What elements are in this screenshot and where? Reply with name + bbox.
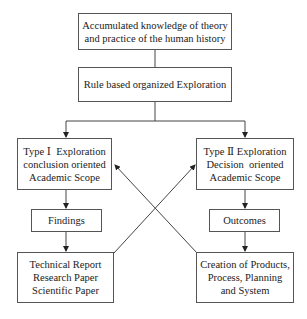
edge-creation-type1 (115, 165, 197, 253)
edge-reports-type2 (114, 165, 195, 253)
exploration-line-1: Rule based organized Exploration (84, 78, 226, 91)
type2-box: Type Ⅱ Exploration Decision oriented Aca… (196, 138, 294, 190)
findings-box: Findings (31, 209, 102, 232)
reports-line-1: Technical Report (30, 258, 102, 271)
knowledge-line-1: Accumulated knowledge of theory (82, 19, 228, 32)
reports-line-2: Research Paper (33, 271, 98, 284)
type2-line-3: Academic Scope (210, 171, 281, 184)
creation-line-2: Process, Planning (208, 271, 283, 284)
outcomes-line-1: Outcomes (223, 214, 266, 227)
type2-line-1: Type Ⅱ Exploration (204, 145, 287, 158)
findings-line-1: Findings (48, 214, 85, 227)
knowledge-box: Accumulated knowledge of theory and prac… (78, 13, 232, 50)
reports-line-3: Scientific Paper (32, 284, 99, 297)
creation-line-3: and System (221, 284, 270, 297)
exploration-box: Rule based organized Exploration (78, 67, 232, 102)
type1-line-1: Type Ⅰ Exploration (23, 145, 105, 158)
type1-line-3: Academic Scope (29, 171, 100, 184)
reports-box: Technical Report Research Paper Scientif… (17, 252, 114, 303)
outcomes-box: Outcomes (209, 209, 280, 232)
creation-box: Creation of Products, Process, Planning … (196, 252, 294, 303)
type1-box: Type Ⅰ Exploration conclusion oriented A… (17, 138, 112, 190)
creation-line-1: Creation of Products, (200, 258, 290, 271)
knowledge-line-2: and practice of the human history (85, 32, 226, 45)
type2-line-2: Decision oriented (207, 158, 284, 171)
type1-line-2: conclusion oriented (23, 158, 106, 171)
